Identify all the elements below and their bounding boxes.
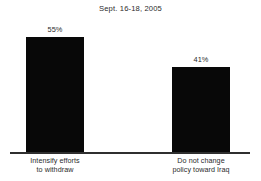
plot-area (0, 0, 261, 153)
bar-chart: Sept. 16-18, 2005 55% 41% Intensify effo… (0, 0, 261, 181)
category-label-intensify-efforts-to-withdraw: Intensify efforts to withdraw (10, 157, 100, 174)
bar-value-label: 55% (26, 25, 84, 34)
x-axis-line (10, 152, 250, 154)
bar-value-label: 41% (172, 55, 230, 64)
bar-do-not-change-policy-toward-iraq (172, 67, 230, 153)
category-label-line: to withdraw (10, 166, 100, 175)
category-label-line: policy toward Iraq (156, 166, 246, 175)
category-label-do-not-change-policy-toward-iraq: Do not change policy toward Iraq (156, 157, 246, 174)
bar-intensify-efforts-to-withdraw (26, 37, 84, 153)
